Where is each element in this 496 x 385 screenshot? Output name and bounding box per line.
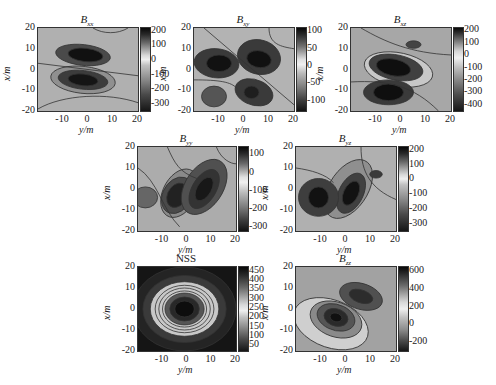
colorbar-tick-label: 0	[409, 318, 414, 328]
colorbar-tick-label: -300	[409, 218, 427, 228]
colorbar-tick-label: 600	[409, 265, 424, 275]
y-axis-label: x/m	[101, 306, 112, 320]
colorbar-tick-label: 0	[409, 173, 414, 183]
colorbar-tick-label: -400	[464, 99, 482, 109]
contour-region	[244, 86, 259, 98]
colorbar-tick-label: 100	[151, 39, 166, 49]
contour-line	[361, 28, 451, 55]
y-axis-label: x/m	[259, 186, 270, 200]
colorbar-tick-label: 200	[151, 25, 166, 35]
colorbar-tick-label: -300	[464, 86, 482, 96]
y-tick-label: 20	[271, 261, 293, 271]
x-tick-label: 20	[281, 114, 305, 124]
panel-title: Bxy	[193, 13, 293, 28]
contour-region	[309, 187, 329, 208]
y-axis-label: x/m	[101, 186, 112, 200]
x-tick-label: -10	[50, 114, 74, 124]
colorbar-tick-label: -200	[409, 336, 427, 346]
y-tick-label: 10	[271, 282, 293, 292]
panel-title-text: NSS	[176, 252, 196, 264]
x-tick-label: -10	[206, 114, 230, 124]
x-tick-label: 10	[199, 354, 223, 364]
y-tick-label: 0	[271, 303, 293, 313]
colorbar-tick-label: -200	[464, 74, 482, 84]
y-axis-label: x/m	[314, 66, 325, 80]
y-tick-label: 0	[271, 183, 293, 193]
contour-plot-area	[295, 266, 397, 352]
y-tick-label: 20	[169, 22, 191, 32]
contour-line	[93, 28, 128, 33]
colorbar-tick-label: 50	[307, 43, 317, 53]
contour-plot-area	[193, 27, 295, 112]
y-tick-label: 20	[113, 261, 135, 271]
contour-region	[406, 41, 421, 48]
colorbar-tick-label: 100	[249, 148, 264, 158]
contour-region	[138, 187, 158, 208]
colorbar	[398, 146, 409, 232]
x-tick-label: 20	[383, 234, 407, 244]
colorbar-tick-label: -100	[409, 188, 427, 198]
y-tick-label: -20	[13, 105, 35, 115]
panel-title: Bxz	[350, 13, 450, 28]
y-tick-label: 20	[113, 141, 135, 151]
x-tick-label: 10	[256, 114, 280, 124]
panel-title-text: B	[339, 252, 346, 264]
colorbar-tick-label: 200	[409, 144, 424, 154]
contour-plot-area	[295, 146, 397, 232]
y-tick-label: -20	[326, 105, 348, 115]
x-axis-label: y/m	[178, 364, 192, 375]
x-tick-label: 0	[333, 234, 357, 244]
x-tick-label: 20	[223, 354, 247, 364]
x-tick-label: 0	[333, 354, 357, 364]
y-axis-label: x/m	[157, 66, 168, 80]
x-tick-label: 20	[223, 234, 247, 244]
colorbar-tick-label: 0	[151, 54, 156, 64]
colorbar-tick-label: 0	[249, 167, 254, 177]
x-axis-label: y/m	[235, 124, 249, 135]
contour-plot-area	[350, 27, 452, 112]
x-axis-label: y/m	[337, 364, 351, 375]
colorbar-tick-label: -100	[464, 62, 482, 72]
panel-title: Byz	[295, 132, 395, 147]
contour-line	[38, 96, 138, 109]
x-tick-label: 0	[174, 234, 198, 244]
x-tick-label: 0	[174, 354, 198, 364]
y-tick-label: -20	[169, 105, 191, 115]
contour-plot-area	[137, 266, 237, 352]
y-tick-label: 10	[326, 43, 348, 53]
x-tick-label: 20	[125, 114, 149, 124]
colorbar	[453, 27, 464, 112]
colorbar-tick-label: 400	[409, 283, 424, 293]
y-tick-label: 20	[13, 22, 35, 32]
y-tick-label: 20	[271, 141, 293, 151]
y-tick-label: 20	[326, 22, 348, 32]
y-tick-label: -20	[113, 225, 135, 235]
x-tick-label: 20	[438, 114, 462, 124]
x-tick-label: -10	[150, 234, 174, 244]
colorbar-tick-label: -200	[151, 83, 169, 93]
y-tick-label: 10	[113, 282, 135, 292]
contour-plot-area	[137, 146, 237, 232]
x-tick-label: 0	[231, 114, 255, 124]
panel-title: NSS	[137, 252, 235, 264]
x-tick-label: 0	[75, 114, 99, 124]
y-tick-label: -20	[271, 345, 293, 355]
colorbar-tick-label: -200	[249, 203, 267, 213]
x-tick-label: -10	[308, 234, 332, 244]
y-axis-label: x/m	[259, 306, 270, 320]
y-tick-label: 10	[271, 162, 293, 172]
colorbar-tick-label: -200	[409, 203, 427, 213]
y-tick-label: 0	[326, 64, 348, 74]
colorbar	[140, 27, 151, 112]
y-tick-label: -10	[271, 204, 293, 214]
colorbar-tick-label: 100	[464, 37, 479, 47]
colorbar-tick-label: -300	[249, 221, 267, 231]
x-tick-label: 10	[199, 234, 223, 244]
contour-region	[370, 171, 383, 179]
y-tick-label: -10	[113, 324, 135, 334]
colorbar	[238, 146, 249, 232]
x-tick-label: -10	[150, 354, 174, 364]
x-tick-label: -10	[308, 354, 332, 364]
colorbar-tick-label: 200	[464, 24, 479, 34]
y-tick-label: -10	[271, 324, 293, 334]
